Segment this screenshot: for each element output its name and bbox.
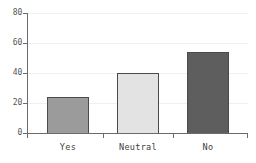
y-tick-60 — [23, 43, 28, 44]
bar-neutral[interactable] — [117, 73, 159, 135]
x-tick-label-no: No — [203, 143, 214, 152]
y-tick-label-80: 80 — [2, 9, 22, 17]
y-tick-20 — [23, 103, 28, 104]
x-tick-2 — [173, 134, 174, 138]
x-tick-1 — [103, 134, 104, 138]
bars-layer — [0, 0, 256, 134]
y-tick-40 — [23, 73, 28, 74]
y-tick-label-40: 40 — [2, 69, 22, 77]
y-tick-label-60: 60 — [2, 39, 22, 47]
x-tick-label-neutral: Neutral — [119, 143, 157, 152]
y-tick-label-0: 0 — [2, 129, 22, 137]
x-tick-label-yes: Yes — [60, 143, 76, 152]
bar-chart: 80 60 40 20 0 Yes Neutral No — [0, 0, 256, 163]
bar-no[interactable] — [187, 52, 229, 134]
x-tick-start — [27, 134, 28, 138]
y-tick-label-20: 20 — [2, 99, 22, 107]
bar-yes[interactable] — [47, 97, 89, 135]
y-tick-80 — [23, 13, 28, 14]
x-tick-end — [247, 134, 248, 138]
x-axis-line — [27, 133, 248, 134]
